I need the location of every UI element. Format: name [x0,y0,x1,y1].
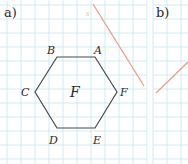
vertex-label-c: C [21,86,30,99]
panel-a-label: a) [4,5,17,20]
vertex-label-e: E [92,134,101,147]
vertex-label-a: A [93,44,102,57]
panel-divider [148,0,153,164]
vertex-label-d: D [48,134,58,147]
panel-b-label: b) [156,5,169,20]
grid-panel-b [153,0,188,164]
diagram-canvas: a) b) s B A C F D E F [0,0,188,164]
figure-name-label: F [69,84,81,100]
vertex-label-b: B [46,44,55,57]
axis-line-b [156,62,188,93]
axis-line-label: s [86,10,90,18]
grid-panel-a [0,0,147,164]
vertex-label-f: F [119,86,128,99]
